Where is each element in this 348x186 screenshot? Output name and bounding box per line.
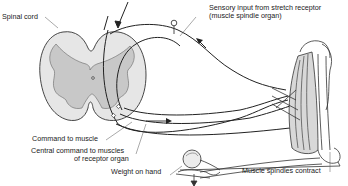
stretch-reflex-diagram: Spinal cord Sensory input from stretch r… [0, 0, 348, 186]
label-central-command-line2: of receptor organ [74, 155, 129, 163]
diagram-artwork [0, 0, 348, 186]
label-sensory-input-line2: (muscle spindle organ) [209, 12, 282, 20]
descending-arrows [104, 2, 128, 30]
label-spinal-cord: Spinal cord [2, 13, 38, 21]
arm-illustration [180, 41, 340, 178]
label-command-to-muscle: Command to muscle [32, 135, 98, 143]
hand-with-weight [176, 150, 220, 186]
label-muscle-spindles-contract: Muscle spindles contract [242, 167, 321, 175]
label-weight-on-hand: Weight on hand [111, 168, 161, 176]
spinal-cord-cross-section [40, 32, 146, 121]
